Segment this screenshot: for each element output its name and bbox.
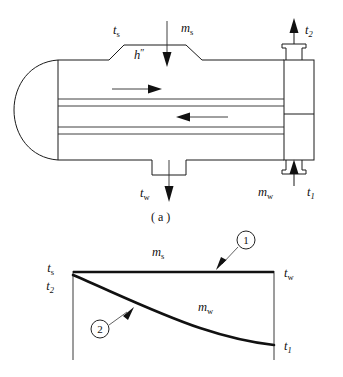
label-enthalpy: h″ <box>134 47 144 62</box>
chart-label-water-flow: mw <box>198 300 214 316</box>
shell-bottom-wall <box>58 160 284 175</box>
figure-canvas: ts ms h″ t2 t1 mw tw ( a ) <box>0 0 343 377</box>
shell-outline <box>14 45 284 175</box>
label-steam-temp: ts <box>113 23 120 39</box>
axis-label-tw: tw <box>284 266 294 282</box>
steam-inlet-arrow <box>163 21 172 67</box>
callout-2-label: 2 <box>97 323 103 335</box>
axis-label-t1: t1 <box>284 339 292 355</box>
label-outlet-temp: t2 <box>305 23 313 39</box>
figure-root: ts ms h″ t2 t1 mw tw ( a ) <box>0 0 343 377</box>
callout-2: 2 <box>91 307 134 338</box>
channel-box <box>284 60 314 160</box>
tube-bundle <box>58 99 284 134</box>
label-water-flow: mw <box>258 185 274 201</box>
axis-label-ts: ts <box>47 261 54 277</box>
tube-pass-1-arrow <box>112 85 162 94</box>
chart-label-steam-flow: ms <box>152 245 164 261</box>
condensate-outlet-arrow <box>165 160 174 202</box>
water-outlet-arrow <box>290 18 299 33</box>
label-inlet-temp: t1 <box>307 185 315 201</box>
water-curve-series <box>73 275 274 345</box>
callout-1-label: 1 <box>243 234 249 246</box>
tube-pass-2-arrow <box>176 113 228 122</box>
label-steam-flow: ms <box>181 21 193 37</box>
water-inlet-arrow <box>290 160 299 175</box>
label-condensate-temp: tw <box>140 186 150 202</box>
caption-a: ( a ) <box>151 210 170 224</box>
right-channel-head <box>284 60 314 160</box>
left-dished-head <box>14 60 58 160</box>
axis-label-t2: t2 <box>46 279 54 295</box>
water-outlet-nozzle <box>282 33 306 60</box>
temperature-profile-chart: 1 2 ms mw ts t2 <box>46 231 294 360</box>
callout-1: 1 <box>216 231 255 270</box>
heat-exchanger-diagram: ts ms h″ t2 t1 mw tw ( a ) <box>14 18 315 224</box>
